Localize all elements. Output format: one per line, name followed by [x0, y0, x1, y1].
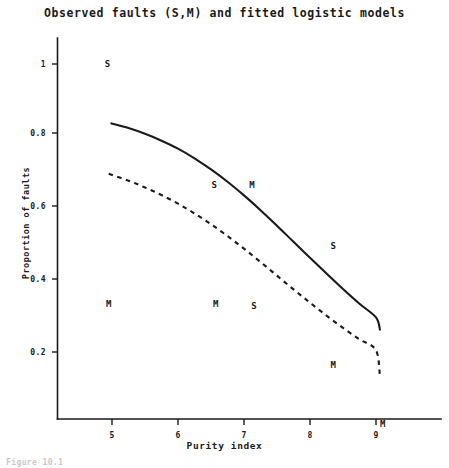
x-tick-label-9: 9 [373, 431, 378, 440]
observed-point-s-2: S [212, 180, 217, 190]
figure-caption: Figure 10.1 [6, 458, 63, 468]
observed-point-m-8: M [380, 419, 386, 429]
plot-area: 1 0.8 0.6 0.4 0.2 5 6 7 8 9 SMSMMSSMM [0, 0, 449, 468]
y-axis-tick-labels: 1 0.8 0.6 0.4 0.2 [30, 60, 46, 357]
x-tick-label-8: 8 [307, 431, 312, 440]
observed-point-s-5: S [251, 301, 256, 311]
observed-point-m-7: M [330, 360, 336, 370]
x-axis-tick-labels: 5 6 7 8 9 [109, 431, 378, 440]
fitted-curve-solid [111, 123, 380, 329]
fitted-curve-dashed [109, 174, 380, 377]
y-tick-label-0-2: 0.2 [30, 348, 46, 357]
chart-figure: Observed faults (S,M) and fitted logisti… [0, 0, 449, 468]
y-axis-title: Proportion of faults [21, 153, 31, 293]
observed-point-markers: SMSMMSSMM [105, 59, 386, 429]
observed-point-s-0: S [105, 59, 110, 69]
x-axis-title: Purity index [0, 440, 449, 451]
x-tick-label-7: 7 [241, 431, 246, 440]
y-tick-label-0-6: 0.6 [30, 202, 46, 211]
y-tick-label-0-8: 0.8 [30, 129, 46, 138]
x-axis-ticks [112, 419, 376, 425]
y-tick-label-0-4: 0.4 [30, 275, 46, 284]
y-tick-label-1: 1 [41, 60, 46, 69]
observed-point-s-6: S [330, 241, 335, 251]
x-tick-label-6: 6 [175, 431, 180, 440]
observed-point-m-3: M [249, 180, 255, 190]
x-tick-label-5: 5 [109, 431, 114, 440]
observed-point-m-1: M [106, 299, 112, 309]
observed-point-m-4: M [213, 299, 219, 309]
